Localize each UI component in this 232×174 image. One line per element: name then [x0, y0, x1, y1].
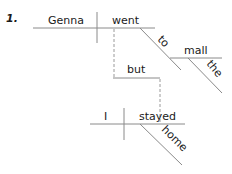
clause2-verb: stayed — [139, 110, 176, 123]
article-word: the — [204, 58, 226, 80]
clause1-verb: went — [112, 14, 140, 27]
preposition-word: to — [155, 33, 172, 50]
object-word: mall — [184, 44, 208, 57]
adverb-word: home — [159, 123, 190, 154]
sentence-diagram: 1. Genna went to mall the but I stayed h… — [0, 0, 232, 174]
item-number: 1. — [6, 12, 18, 25]
preposition-diagonal — [140, 28, 181, 70]
clause1-subject: Genna — [48, 14, 84, 27]
conjunction-word: but — [127, 63, 146, 76]
clause2-subject: I — [104, 110, 107, 123]
